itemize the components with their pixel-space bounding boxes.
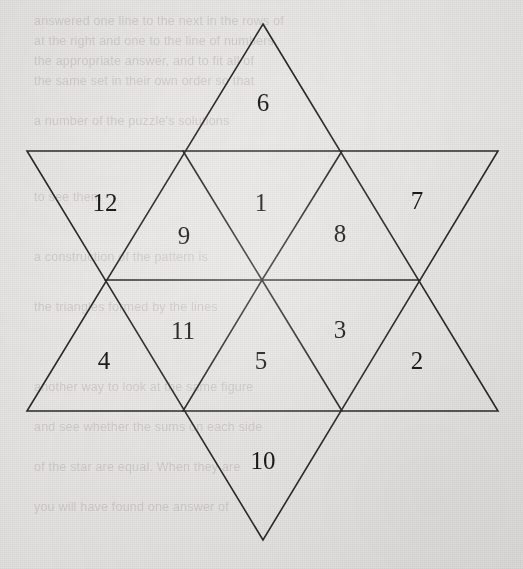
triangle-label-2: 2: [411, 348, 424, 373]
triangle-label-6: 6: [257, 90, 270, 115]
triangle-label-12: 12: [93, 190, 118, 215]
spoke-upper-right: [262, 151, 342, 280]
triangle-label-4: 4: [98, 348, 111, 373]
spoke-lower-left: [183, 280, 262, 411]
star-of-david-figure: [0, 0, 523, 569]
figure-page: answered one line to the next in the row…: [0, 0, 523, 569]
spoke-upper-left: [183, 151, 262, 280]
triangle-label-10: 10: [251, 448, 276, 473]
triangle-label-1: 1: [255, 190, 268, 215]
triangle-label-11: 11: [171, 318, 195, 343]
triangle-label-9: 9: [178, 223, 191, 248]
spoke-lower-right: [262, 280, 342, 411]
triangle-label-7: 7: [411, 188, 424, 213]
triangle-label-3: 3: [334, 317, 347, 342]
triangle-label-5: 5: [255, 348, 268, 373]
triangle-label-8: 8: [334, 221, 347, 246]
